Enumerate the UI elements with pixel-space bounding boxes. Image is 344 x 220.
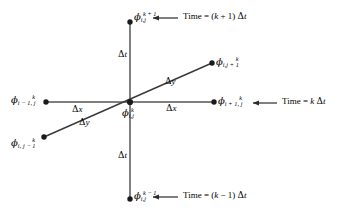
time-mid: − 1) [218, 190, 237, 200]
delta-variable: x [173, 103, 177, 113]
node-label-i-j-k: ϕi,jk [122, 107, 134, 119]
phi-superscript: k [32, 93, 35, 100]
delta-variable: t [125, 49, 128, 59]
phi-symbol: ϕ [122, 107, 129, 118]
delta-y-upper-label: Δy [165, 77, 176, 86]
delta-variable: x [79, 104, 83, 114]
time-prefix: Time = ( [183, 11, 214, 21]
node-label-i-j-k-minus-1: ϕi,jk − 1 [134, 190, 157, 202]
phi-symbol: ϕ [134, 11, 141, 22]
phi-superscript: k [239, 94, 242, 101]
delta-variable: t [125, 150, 128, 160]
phi-superscript: k [131, 106, 134, 113]
phi-symbol: ϕ [11, 94, 18, 105]
phi-superscript: k + 1 [143, 10, 157, 17]
time-unit: t [244, 190, 247, 200]
delta-variable: y [86, 117, 90, 127]
time-mid: + 1) [218, 11, 237, 21]
node-label-i-plus-1-j-k: ϕi + 1, jk [218, 95, 242, 107]
node-dot-i-plus-1-j-k [211, 99, 216, 104]
node-dot-i-minus-1-j-k [43, 99, 48, 104]
finite-difference-stencil-figure: ϕi,jk + 1 ϕi,j + 1k ϕi + 1, jk ϕi,jk ϕi … [0, 0, 344, 220]
time-annotation-k-plus-1: Time = (k + 1) Δt [183, 12, 247, 21]
delta-x-right-label: Δx [166, 104, 177, 113]
node-dot-i-j-minus-1-k [41, 134, 46, 139]
delta-t-lower-label: Δt [118, 151, 127, 160]
node-dot-i-j-k [127, 99, 133, 105]
time-prefix: Time = [282, 96, 310, 106]
time-unit: t [323, 96, 326, 106]
delta-t-upper-label: Δt [118, 50, 127, 59]
node-label-i-minus-1-j-k: ϕi − 1, jk [11, 94, 35, 106]
phi-symbol: ϕ [218, 95, 225, 106]
node-label-i-j-plus-1-k: ϕi,j + 1k [216, 56, 239, 68]
phi-superscript: k [236, 55, 239, 62]
time-annotation-k: Time = k Δt [282, 97, 326, 106]
phi-symbol: ϕ [216, 56, 223, 67]
node-label-i-j-minus-1-k: ϕi, j − 1k [11, 137, 35, 149]
node-dot-i-j-k-plus-1 [127, 19, 132, 24]
time-prefix: Time = ( [183, 190, 214, 200]
phi-symbol: ϕ [134, 190, 141, 201]
phi-symbol: ϕ [11, 137, 18, 148]
delta-y-lower-label: Δy [79, 118, 90, 127]
node-dot-i-j-k-minus-1 [127, 196, 132, 201]
node-label-i-j-k-plus-1: ϕi,jk + 1 [134, 11, 157, 23]
delta-x-left-label: Δx [72, 105, 83, 114]
node-dot-i-j-plus-1-k [209, 60, 214, 65]
time-unit: t [244, 11, 247, 21]
time-annotation-k-minus-1: Time = (k − 1) Δt [183, 191, 247, 200]
phi-superscript: k [32, 136, 35, 143]
phi-superscript: k − 1 [143, 189, 157, 196]
delta-variable: y [172, 76, 176, 86]
